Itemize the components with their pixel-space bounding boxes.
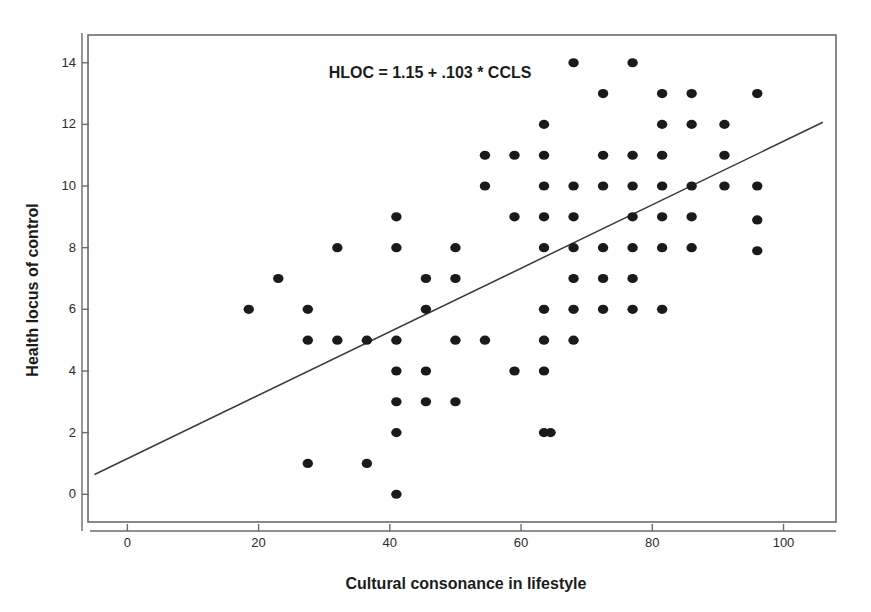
data-point xyxy=(719,120,729,129)
data-point xyxy=(421,274,431,283)
data-point xyxy=(362,336,372,345)
data-point xyxy=(450,336,460,345)
data-point xyxy=(303,305,313,314)
data-point xyxy=(686,120,696,129)
data-point xyxy=(303,336,313,345)
data-point xyxy=(686,243,696,252)
data-point xyxy=(509,212,519,221)
data-point xyxy=(657,181,667,190)
data-point xyxy=(362,459,372,468)
data-point xyxy=(752,89,762,98)
data-point xyxy=(480,336,490,345)
data-point xyxy=(568,58,578,67)
data-point xyxy=(391,428,401,437)
data-point xyxy=(598,305,608,314)
data-point xyxy=(598,243,608,252)
data-point xyxy=(598,274,608,283)
data-point xyxy=(598,181,608,190)
data-point xyxy=(752,181,762,190)
data-point xyxy=(391,336,401,345)
data-point xyxy=(391,212,401,221)
data-point xyxy=(568,305,578,314)
data-point xyxy=(332,243,342,252)
data-point xyxy=(539,366,549,375)
data-point xyxy=(627,151,637,160)
x-tick-label: 0 xyxy=(124,535,131,550)
data-point xyxy=(539,212,549,221)
y-tick-label: 4 xyxy=(69,363,76,378)
x-tick-label: 100 xyxy=(773,535,795,550)
data-point xyxy=(598,151,608,160)
data-point xyxy=(450,243,460,252)
data-point xyxy=(509,151,519,160)
figure-background xyxy=(0,0,871,612)
data-point xyxy=(627,243,637,252)
y-tick-label: 14 xyxy=(62,55,76,70)
data-point xyxy=(391,366,401,375)
data-point xyxy=(627,181,637,190)
data-point xyxy=(391,243,401,252)
plot-canvas: 020406080100 02468101214 HLOC = 1.15 + .… xyxy=(0,0,871,612)
data-point xyxy=(657,89,667,98)
x-tick-label: 20 xyxy=(251,535,265,550)
data-point xyxy=(657,212,667,221)
data-point xyxy=(421,397,431,406)
data-point xyxy=(545,428,555,437)
data-point xyxy=(539,181,549,190)
data-point xyxy=(332,336,342,345)
y-tick-label: 0 xyxy=(69,486,76,501)
data-point xyxy=(719,181,729,190)
data-point xyxy=(686,181,696,190)
data-point xyxy=(657,305,667,314)
x-tick-label: 60 xyxy=(514,535,528,550)
data-point xyxy=(244,305,254,314)
data-point xyxy=(480,181,490,190)
data-point xyxy=(752,215,762,224)
data-point xyxy=(480,151,490,160)
data-point xyxy=(539,305,549,314)
data-point xyxy=(539,336,549,345)
data-point xyxy=(686,212,696,221)
x-tick-label: 80 xyxy=(645,535,659,550)
y-tick-label: 10 xyxy=(62,178,76,193)
y-axis-title: Health locus of control xyxy=(24,203,41,376)
data-point xyxy=(627,305,637,314)
y-tick-label: 2 xyxy=(69,425,76,440)
y-tick-label: 6 xyxy=(69,301,76,316)
data-point xyxy=(539,120,549,129)
data-point xyxy=(539,151,549,160)
data-point xyxy=(568,243,578,252)
data-point xyxy=(719,151,729,160)
x-axis-title: Cultural consonance in lifestyle xyxy=(346,575,587,592)
data-point xyxy=(627,212,637,221)
scatter-plot-figure: 020406080100 02468101214 HLOC = 1.15 + .… xyxy=(0,0,871,612)
data-point xyxy=(627,58,637,67)
data-point xyxy=(657,243,667,252)
y-tick-label: 8 xyxy=(69,240,76,255)
data-point xyxy=(598,89,608,98)
data-point xyxy=(421,305,431,314)
data-point xyxy=(273,274,283,283)
data-point xyxy=(657,151,667,160)
data-point xyxy=(450,274,460,283)
data-point xyxy=(657,120,667,129)
data-point xyxy=(568,274,578,283)
data-point xyxy=(391,397,401,406)
regression-equation-annotation: HLOC = 1.15 + .103 * CCLS xyxy=(329,64,532,81)
data-point xyxy=(627,274,637,283)
data-point xyxy=(686,89,696,98)
data-point xyxy=(568,336,578,345)
data-point xyxy=(752,246,762,255)
y-tick-label: 12 xyxy=(62,116,76,131)
data-point xyxy=(509,366,519,375)
data-point xyxy=(568,181,578,190)
data-point xyxy=(450,397,460,406)
data-point xyxy=(421,366,431,375)
data-point xyxy=(303,459,313,468)
data-point xyxy=(539,243,549,252)
data-point xyxy=(391,490,401,499)
data-point xyxy=(568,212,578,221)
x-tick-label: 40 xyxy=(383,535,397,550)
